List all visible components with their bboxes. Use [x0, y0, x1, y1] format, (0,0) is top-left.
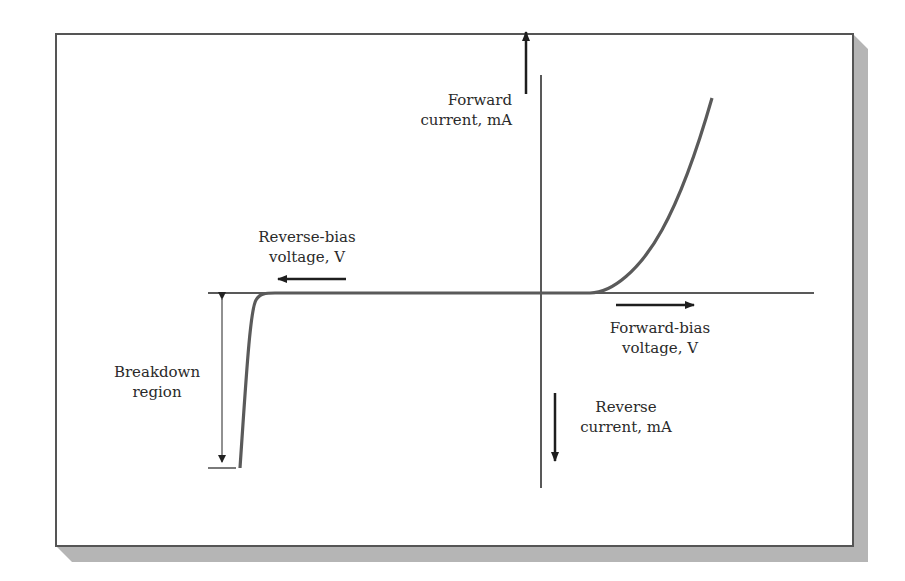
breakdown-label-line1: Breakdown: [114, 363, 201, 381]
breakdown-label-line2: region: [132, 383, 181, 401]
forward-current-label-line1: Forward: [448, 91, 513, 109]
reverse-bias-label-line2: voltage, V: [268, 248, 346, 266]
forward-current-label-line2: current, mA: [420, 111, 512, 129]
reverse-current-label-line1: Reverse: [595, 398, 656, 416]
reverse-bias-label-line1: Reverse-bias: [258, 228, 355, 246]
forward-bias-label-line2: voltage, V: [621, 339, 699, 357]
reverse-current-label-line2: current, mA: [580, 418, 672, 436]
diagram-canvas: Forward current, mA Reverse-bias voltage…: [0, 0, 905, 581]
forward-bias-label-line1: Forward-bias: [610, 319, 710, 337]
